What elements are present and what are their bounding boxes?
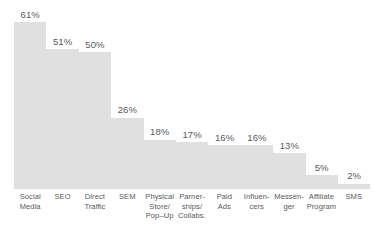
bar-group-influencers: 16% (241, 0, 273, 189)
bar-group-sem: 26% (111, 0, 143, 189)
x-label-sms: SMS (338, 192, 370, 202)
x-label-line: Direct (79, 192, 111, 202)
bar-partnerships-collabs (176, 142, 208, 189)
x-label-line: SEO (46, 192, 78, 202)
bar-messenger (273, 153, 305, 189)
x-label-affiliate-program: AffiliateProgram (305, 192, 337, 211)
x-label-paid-ads: PaidAds (208, 192, 240, 211)
bar-group-sms: 2% (338, 0, 370, 189)
x-label-seo: SEO (46, 192, 78, 202)
bar-group-social-media: 61% (14, 0, 46, 189)
bar-value-label: 18% (150, 126, 169, 137)
bar-value-label: 2% (347, 170, 361, 181)
x-label-line: Social (14, 192, 46, 202)
bar-sms (338, 184, 370, 189)
x-label-social-media: SocialMedia (14, 192, 46, 211)
bar-paid-ads (208, 145, 240, 189)
bar-group-paid-ads: 16% (208, 0, 240, 189)
bar-value-label: 50% (85, 39, 104, 50)
x-label-partnerships-collabs: Parner-ships/Collabs. (176, 192, 208, 221)
bar-direct-traffic (79, 52, 111, 189)
bar-sem (111, 118, 143, 189)
x-axis-category-labels: SocialMedia SEO DirectTraffic SEM Physic… (14, 192, 370, 237)
bar-group-direct-traffic: 50% (79, 0, 111, 189)
bar-value-label: 26% (118, 104, 137, 115)
bar-value-label: 61% (21, 9, 40, 20)
bar-chart: 61% 51% 50% 26% 18% 17% 16% 16% (0, 0, 380, 237)
x-label-line: Parner- (176, 192, 208, 202)
bar-social-media (14, 22, 46, 189)
bar-value-label: 13% (280, 140, 299, 151)
x-label-line: cers (241, 202, 273, 212)
bar-value-label: 16% (247, 132, 266, 143)
x-label-messenger: Messen-ger (273, 192, 305, 211)
bar-group-physical-store-pop-up: 18% (144, 0, 176, 189)
x-label-line: ships/ (176, 202, 208, 212)
x-label-line: Traffic (79, 202, 111, 212)
x-label-line: Messen- (273, 192, 305, 202)
x-label-line: SEM (111, 192, 143, 202)
x-label-physical-store-pop-up: PhysicalStore/Pop–Up (143, 192, 175, 221)
x-label-sem: SEM (111, 192, 143, 202)
x-label-line: Affiliate (305, 192, 337, 202)
x-label-line: Physical (143, 192, 175, 202)
bar-physical-store-pop-up (144, 140, 176, 189)
bar-group-affiliate-program: 5% (306, 0, 338, 189)
x-label-line: Paid (208, 192, 240, 202)
bar-group-seo: 51% (46, 0, 78, 189)
x-label-line: Ads (208, 202, 240, 212)
bar-seo (46, 49, 78, 189)
x-label-line: SMS (338, 192, 370, 202)
x-label-line: Pop–Up (143, 211, 175, 221)
bar-influencers (241, 145, 273, 189)
chart-plot-area: 61% 51% 50% 26% 18% 17% 16% 16% (14, 0, 370, 189)
x-label-line: Influen- (241, 192, 273, 202)
bar-value-label: 51% (53, 36, 72, 47)
x-label-influencers: Influen-cers (241, 192, 273, 211)
x-label-line: Media (14, 202, 46, 212)
bar-value-label: 5% (315, 162, 329, 173)
x-label-line: Collabs. (176, 211, 208, 221)
bar-value-label: 17% (182, 129, 201, 140)
x-label-line: Store/ (143, 202, 175, 212)
bar-affiliate-program (306, 175, 338, 189)
bar-value-label: 16% (215, 132, 234, 143)
x-label-direct-traffic: DirectTraffic (79, 192, 111, 211)
bar-group-messenger: 13% (273, 0, 305, 189)
x-label-line: ger (273, 202, 305, 212)
x-label-line: Program (305, 202, 337, 212)
bar-group-partnerships-collabs: 17% (176, 0, 208, 189)
